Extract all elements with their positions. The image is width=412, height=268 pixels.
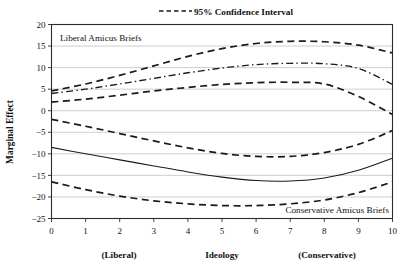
y-axis-title: Marginal Effect	[5, 99, 15, 164]
x-tick-label: 5	[220, 226, 225, 236]
x-axis-right-anchor-label: (Conservative)	[298, 250, 356, 260]
y-tick-label: −15	[31, 171, 46, 181]
x-tick-label: 4	[186, 226, 191, 236]
x-tick-label: 10	[388, 226, 398, 236]
x-tick-label: 2	[117, 226, 122, 236]
x-tick-label: 9	[356, 226, 361, 236]
annotation-conservative-amicus-briefs: Conservative Amicus Briefs	[285, 205, 389, 215]
series-line-ci_lower-conservative	[52, 182, 393, 206]
x-tick-label: 6	[254, 226, 259, 236]
y-axis-label: Marginal Effect	[5, 99, 15, 164]
x-tick-label: 8	[322, 226, 327, 236]
x-tick-label: 3	[152, 226, 157, 236]
y-tick-label: 10	[37, 63, 47, 73]
y-tick-label: −5	[36, 127, 46, 137]
chart-legend: 95% Confidence Interval	[159, 7, 293, 17]
x-tick-label: 0	[49, 226, 54, 236]
x-tick-labels: 012345678910	[49, 226, 397, 236]
series-line-ci_upper-conservative	[52, 119, 393, 157]
x-axis-title: Ideology	[205, 250, 239, 260]
y-tick-label: 0	[41, 106, 46, 116]
x-axis-left-anchor-label: (Liberal)	[101, 250, 136, 260]
y-tick-label: −20	[31, 192, 46, 202]
x-tick-label: 1	[83, 226, 88, 236]
y-tick-label: 20	[37, 20, 47, 30]
series-line-ci_upper-liberal	[52, 41, 393, 91]
plot-frame	[52, 25, 393, 219]
data-curves	[52, 41, 393, 206]
legend-label-confidence-interval: 95% Confidence Interval	[194, 7, 293, 17]
x-tick-label: 7	[288, 226, 293, 236]
chart-canvas: 95% Confidence Interval Marginal Effect …	[0, 0, 412, 268]
series-line-ci_lower-liberal	[52, 82, 393, 114]
y-tick-labels: 20151050−5−10−15−20−25	[31, 20, 46, 224]
y-tick-label: −10	[31, 149, 46, 159]
y-tick-label: 15	[37, 41, 47, 51]
y-tick-label: −25	[31, 214, 46, 224]
annotation-liberal-amicus-briefs: Liberal Amicus Briefs	[60, 33, 142, 43]
marginal-effect-chart: 95% Confidence Interval Marginal Effect …	[0, 0, 412, 268]
y-tick-label: 5	[41, 84, 46, 94]
series-line-estimate-conservative	[52, 147, 393, 181]
